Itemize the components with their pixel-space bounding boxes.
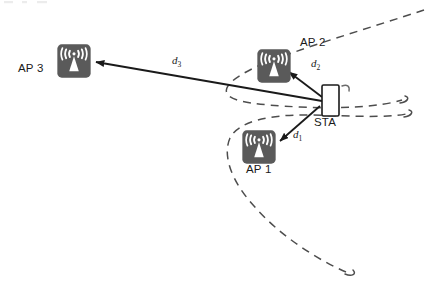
- diagram-canvas: AP 3 AP 2 AP 1 STA d3 d2 d1: [0, 0, 426, 286]
- sta-label: STA: [314, 116, 336, 128]
- ap3-icon[interactable]: [57, 44, 90, 77]
- scan-artifacts: [4, 1, 47, 3]
- ap2-icon[interactable]: [257, 49, 290, 82]
- ap2-label: AP 2: [300, 36, 326, 48]
- ap3-label: AP 3: [18, 62, 44, 74]
- distance-label-d1-sub: 1: [299, 134, 303, 143]
- distance-label-d1: d1: [293, 128, 302, 143]
- diagram-svg: [0, 0, 426, 286]
- curve-end-hooks: [345, 96, 412, 275]
- distance-label-d2: d2: [311, 57, 320, 72]
- distance-label-d3: d3: [172, 54, 181, 69]
- ap1-label: AP 1: [246, 163, 272, 175]
- ap1-icon[interactable]: [242, 130, 275, 163]
- hook-bottom: [345, 270, 354, 275]
- distance-label-d2-sub: 2: [317, 63, 321, 72]
- distance-label-d3-sub: 3: [178, 60, 182, 69]
- distance-line-d2: [289, 72, 322, 97]
- sta-icon[interactable]: [322, 85, 349, 116]
